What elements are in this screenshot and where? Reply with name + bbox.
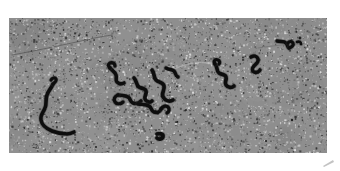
speck-bottom-right — [265, 140, 267, 142]
speck-top-right — [299, 37, 302, 40]
corner-tick-glyph — [323, 160, 334, 167]
speck-center — [185, 109, 187, 111]
micrograph-page: Electron micrograph Dark filamentous mol… — [0, 0, 340, 171]
electron-micrograph-image — [9, 18, 327, 153]
speck-bottom-left — [95, 146, 97, 148]
speck-mid-right — [291, 119, 293, 121]
corner-tick-mark — [322, 158, 336, 168]
micrograph-canvas — [9, 18, 327, 153]
